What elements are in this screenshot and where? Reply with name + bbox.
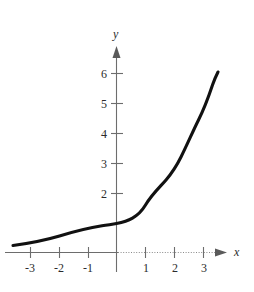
- y-tick-label: 3: [101, 157, 107, 171]
- x-tick-label: -3: [25, 261, 35, 275]
- y-tick-label: 4: [101, 127, 107, 141]
- x-tick-label: 2: [172, 261, 178, 275]
- y-axis-arrow-icon: [113, 46, 121, 58]
- x-tick-label: 3: [201, 261, 207, 275]
- plot-area: -3 -2 -1 1 2 3 6 5 4 3 2 y x: [0, 0, 254, 292]
- y-tick-label: 6: [101, 67, 107, 81]
- x-axis-arrow-icon: [215, 249, 227, 257]
- y-tick-label: 2: [101, 187, 107, 201]
- exponential-function-graph: -3 -2 -1 1 2 3 6 5 4 3 2 y x: [0, 0, 254, 292]
- y-tick-label: 5: [101, 97, 107, 111]
- y-axis: [113, 46, 121, 272]
- y-axis-label: y: [112, 27, 119, 41]
- x-tick-label: -1: [83, 261, 93, 275]
- x-tick-label: -2: [54, 261, 64, 275]
- exponential-curve: [13, 72, 218, 246]
- x-axis-label: x: [233, 245, 240, 259]
- x-tick-label: 1: [143, 261, 149, 275]
- y-tick-labels: 6 5 4 3 2: [101, 67, 107, 201]
